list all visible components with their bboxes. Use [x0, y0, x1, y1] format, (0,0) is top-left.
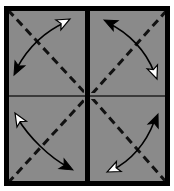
- quadrant-rotation-diagram: [0, 0, 174, 191]
- figure-container: [0, 0, 174, 191]
